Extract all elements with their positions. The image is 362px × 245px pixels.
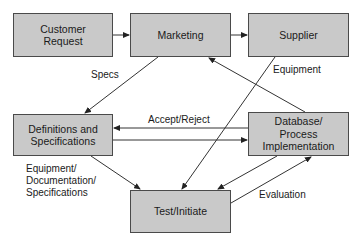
node-customer-request: Customer Request xyxy=(13,13,113,57)
edge-label-equipment-documentation-specifications: Equipment/ Documentation/ Specifications xyxy=(26,163,96,199)
node-customer-request-line2: Request xyxy=(40,35,86,48)
edge-label-accept-reject: Accept/Reject xyxy=(148,114,210,126)
node-definitions-line2: Specifications xyxy=(28,135,97,148)
arrow-database-to-test xyxy=(218,156,277,189)
node-definitions-line1: Definitions and xyxy=(28,123,97,136)
node-test-initiate: Test/Initiate xyxy=(130,190,231,233)
node-database-line2: Process xyxy=(263,128,335,141)
arrow-marketing-to-definitions xyxy=(85,57,158,113)
node-marketing: Marketing xyxy=(130,13,231,57)
node-database-line3: Implementation xyxy=(263,140,335,153)
edge-label-line3: Specifications xyxy=(26,187,96,199)
edge-label-line2: Documentation/ xyxy=(26,175,96,187)
node-database-line1: Database/ xyxy=(263,115,335,128)
node-definitions: Definitions and Specifications xyxy=(13,114,113,156)
node-marketing-label: Marketing xyxy=(157,29,203,42)
edge-label-equipment: Equipment xyxy=(273,64,321,76)
edge-label-evaluation: Evaluation xyxy=(259,189,306,201)
edge-label-specs: Specs xyxy=(91,69,119,81)
edge-label-line1: Equipment/ xyxy=(26,163,96,175)
node-test-label: Test/Initiate xyxy=(154,205,207,218)
node-customer-request-line1: Customer xyxy=(40,23,86,36)
node-database: Database/ Process Implementation xyxy=(248,112,349,156)
node-supplier: Supplier xyxy=(248,13,349,57)
node-supplier-label: Supplier xyxy=(279,29,318,42)
arrow-definitions-to-test xyxy=(91,156,140,189)
